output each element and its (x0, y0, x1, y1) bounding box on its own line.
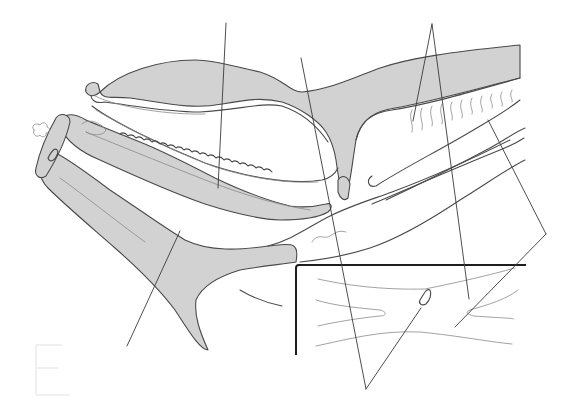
leader-line-upper-cavity (218, 23, 226, 188)
leader-line-inset-bottom (366, 308, 421, 389)
inset-panel (296, 265, 526, 355)
leader-line-right-lower (455, 234, 546, 327)
watermark (36, 345, 70, 395)
uvula (338, 177, 350, 200)
anatomy-diagram (0, 0, 572, 415)
oral-floor-boundary (268, 140, 525, 262)
